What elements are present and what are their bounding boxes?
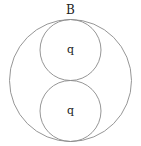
lower-circle-label: q <box>67 104 74 117</box>
diagram-canvas: B q q <box>0 0 141 146</box>
upper-circle-label: q <box>67 43 74 56</box>
outer-circle-label: B <box>66 3 75 17</box>
